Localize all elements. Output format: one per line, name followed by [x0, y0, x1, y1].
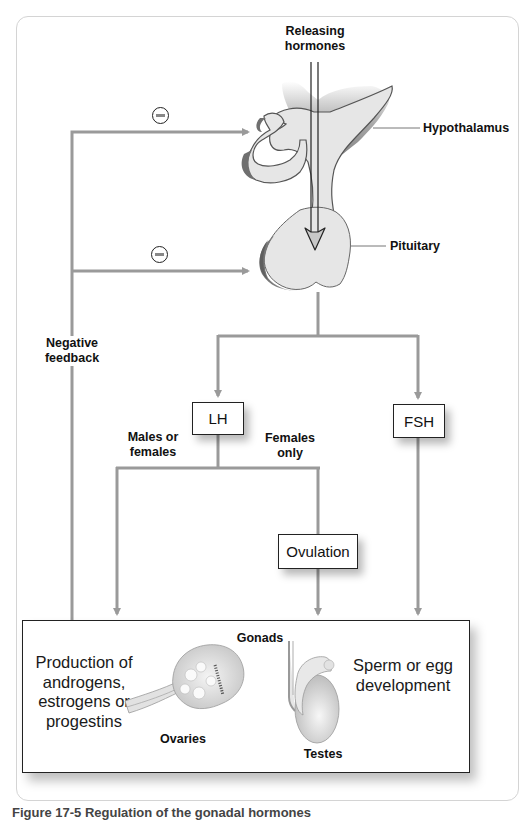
males-or-females-label: Males or females [122, 430, 184, 460]
releasing-hormones-label: Releasing hormones [280, 24, 350, 54]
gonads-right-text: Sperm or egg development [348, 656, 458, 695]
releasing-hormones-line1: Releasing [280, 24, 350, 39]
inhibition-minus-icon-pituitary [151, 246, 168, 263]
pituitary-illustration [259, 207, 386, 290]
right-text-line-2: development [348, 676, 458, 696]
pituitary-output-lines [218, 292, 418, 398]
ovaries-label: Ovaries [153, 732, 213, 747]
hypothalamus-label: Hypothalamus [423, 121, 509, 136]
males-or-females-line1: Males or [122, 430, 184, 445]
ovary-illustration [123, 637, 253, 727]
right-text-line-1: Sperm or egg [348, 656, 458, 676]
fsh-box: FSH [393, 404, 445, 438]
lh-box: LH [192, 402, 244, 435]
females-only-line2: only [260, 446, 320, 461]
negative-feedback-lines [72, 132, 248, 620]
testes-label: Testes [293, 747, 353, 762]
figure-caption: Figure 17-5 Regulation of the gonadal ho… [12, 805, 311, 820]
inhibition-minus-icon-hypothalamus [152, 107, 169, 124]
hypothalamus-illustration [242, 81, 420, 214]
testis-illustration [283, 641, 353, 751]
females-only-label: Females only [260, 431, 320, 461]
pituitary-label: Pituitary [390, 239, 440, 254]
females-only-line1: Females [260, 431, 320, 446]
gonads-box: Gonads Production of androgens, estrogen… [22, 620, 470, 773]
lh-branch-lines [116, 434, 320, 614]
negative-feedback-line1: Negative [42, 336, 102, 351]
ovulation-box: Ovulation [278, 534, 358, 569]
males-or-females-line2: females [122, 445, 184, 460]
negative-feedback-line2: feedback [42, 351, 102, 366]
releasing-hormones-line2: hormones [280, 39, 350, 54]
negative-feedback-label: Negative feedback [42, 336, 102, 366]
